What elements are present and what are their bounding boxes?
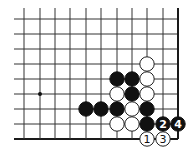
white-stone: [125, 102, 139, 116]
black-stone: [110, 102, 124, 116]
star-points: [38, 92, 42, 96]
white-stone-move-1: 1: [140, 132, 154, 146]
white-stone: [110, 87, 124, 101]
move-number: 2: [159, 118, 167, 131]
white-stone: [125, 117, 139, 131]
white-stone: [140, 87, 154, 101]
move-number: 4: [174, 118, 182, 131]
white-stone-move-3: 3: [156, 132, 170, 146]
star-point: [38, 92, 42, 96]
black-stone-move-4: 4: [171, 117, 185, 131]
black-stone: [125, 72, 139, 86]
move-number: 3: [160, 133, 167, 146]
board-grid: [14, 8, 178, 139]
white-stone: [110, 117, 124, 131]
black-stone-move-2: 2: [156, 117, 170, 131]
move-number: 1: [144, 133, 151, 146]
go-board: 2413: [0, 0, 193, 155]
black-stone: [110, 72, 124, 86]
white-stone: [140, 57, 154, 71]
black-stone: [125, 87, 139, 101]
black-stone: [140, 117, 154, 131]
black-stone: [140, 102, 154, 116]
white-stone: [140, 72, 154, 86]
black-stone: [94, 102, 108, 116]
black-stone: [79, 102, 93, 116]
